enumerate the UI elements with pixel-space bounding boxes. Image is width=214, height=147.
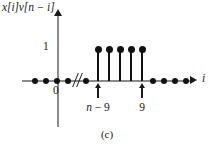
y-tick-label-one: 1 — [43, 40, 49, 52]
stem-marker — [128, 46, 135, 53]
y-axis-label: x[i]v[n − i] — [2, 1, 55, 13]
annotation-label: 9 — [139, 101, 145, 113]
figure-caption: (c) — [0, 128, 214, 140]
zero-sample-marker — [183, 78, 190, 85]
axis-break-icon — [73, 73, 83, 87]
zero-sample-marker — [172, 78, 179, 85]
zero-sample-marker — [54, 78, 61, 85]
y-axis-line — [57, 16, 59, 127]
stem-line — [97, 49, 99, 81]
stem-marker — [95, 46, 102, 53]
stem-line — [108, 49, 110, 81]
zero-sample-marker — [32, 78, 39, 85]
stem-marker — [139, 46, 146, 53]
annotation-label: n − 9 — [86, 101, 110, 113]
zero-sample-marker — [161, 78, 168, 85]
zero-sample-marker — [65, 78, 72, 85]
stem-line — [141, 49, 143, 81]
stem-marker — [106, 46, 113, 53]
annotation-arrow-icon — [97, 87, 98, 98]
stem-line — [119, 49, 121, 81]
zero-sample-marker — [43, 78, 50, 85]
annotation-arrow-icon — [141, 87, 142, 98]
zero-sample-marker — [83, 78, 90, 85]
zero-sample-marker — [150, 78, 157, 85]
figure-container: x[i]v[n − i] i 1 0 n − 99 (c) — [0, 0, 214, 147]
x-axis-arrowhead-icon — [190, 76, 197, 84]
origin-label: 0 — [53, 84, 59, 96]
x-axis-label: i — [202, 72, 205, 84]
stem-marker — [117, 46, 124, 53]
stem-line — [130, 49, 132, 81]
